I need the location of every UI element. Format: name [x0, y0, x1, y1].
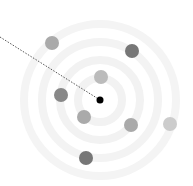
- marker-7: [163, 117, 177, 131]
- marker-3: [94, 70, 108, 84]
- marker-5: [77, 110, 91, 124]
- marker-6: [124, 118, 138, 132]
- marker-1: [45, 36, 59, 50]
- marker-8: [79, 151, 93, 165]
- marker-2: [125, 44, 139, 58]
- marker-4: [54, 88, 68, 102]
- radar-canvas: [0, 0, 193, 186]
- radar-diagram: [0, 0, 193, 186]
- center-dot: [97, 97, 104, 104]
